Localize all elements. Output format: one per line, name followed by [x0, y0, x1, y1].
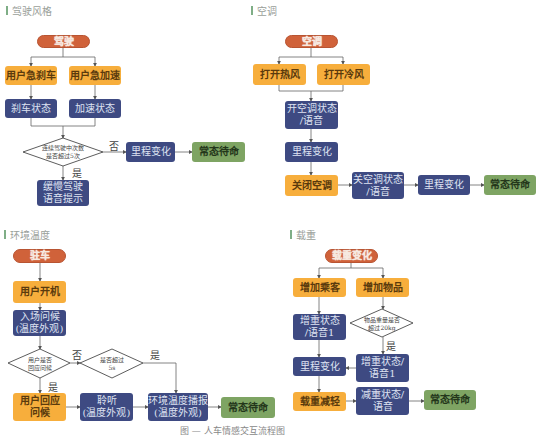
- figure-caption: 图 — 人车情感交互流程图: [180, 424, 285, 437]
- load-start-node: 载重变化: [325, 249, 378, 263]
- section-title-text: 驾驶风格: [12, 3, 52, 18]
- env-yes-label-2: 是: [150, 347, 160, 362]
- driving-standby-node: 常态待命: [192, 142, 245, 162]
- load-reduce-node: 载重减轻: [293, 392, 346, 411]
- power-on-node: 用户开机: [13, 281, 66, 303]
- ac-off-state-node: 关空调状态 /语音: [352, 172, 404, 199]
- ac-standby-node: 常态待命: [484, 175, 536, 195]
- add-item-node: 增加物品: [356, 278, 409, 297]
- driving-yes-label: 是: [72, 165, 82, 180]
- brake-state-node: 刹车状态: [5, 99, 57, 118]
- weight-state-node-2: 增重状态/ 语音1: [356, 354, 409, 382]
- brake-action-node: 用户急刹车: [5, 66, 57, 85]
- section-title-text: 空调: [257, 3, 277, 18]
- section-title-environment: 环境温度: [4, 227, 50, 242]
- accel-action-node: 用户急加速: [69, 66, 121, 85]
- section-title-load: 载重: [290, 227, 316, 242]
- load-yes-label: 是: [386, 338, 396, 353]
- ac-off-node: 关闭空调: [285, 175, 338, 196]
- reduce-state-node: 减重状态/ 语音: [356, 387, 409, 415]
- greeting-node: 入场问候 (温度外观): [13, 310, 66, 336]
- section-bar-icon: [6, 6, 8, 15]
- env-start-node: 驻车: [13, 249, 66, 263]
- env-yes-label-1: 是: [48, 379, 58, 394]
- ac-start-node: 空调: [285, 35, 338, 48]
- section-title-text: 载重: [296, 227, 316, 242]
- section-title-ac: 空调: [251, 3, 277, 18]
- driving-no-label: 否: [109, 138, 119, 153]
- section-title-text: 环境温度: [10, 227, 50, 242]
- ac-on-state-node: 开空调状态 /语音: [285, 101, 338, 129]
- env-standby-node: 常态待命: [221, 397, 275, 418]
- section-title-driving: 驾驶风格: [6, 3, 52, 18]
- section-bar-icon: [290, 230, 292, 239]
- reply-decision-text: 用户是否 回应问候: [15, 356, 65, 372]
- section-bar-icon: [251, 6, 253, 15]
- driving-decision-text: 连续驾驶中次数 是否超过5次: [33, 144, 93, 160]
- weight-decision-text: 物品重量是否 超过20kg: [355, 316, 409, 332]
- temp-broadcast-node: 环境温度播报 (温度外观): [148, 393, 208, 421]
- ac-mileage-node-1: 里程变化: [285, 142, 338, 162]
- cold-air-node: 打开冷风: [317, 64, 370, 85]
- section-bar-icon: [4, 230, 6, 239]
- load-standby-node: 常态待命: [424, 390, 476, 410]
- accel-state-node: 加速状态: [69, 99, 121, 118]
- listen-node: 聆听 (温度外观): [80, 393, 133, 421]
- driving-start-node: 驾驶: [37, 35, 90, 48]
- env-no-label: 否: [72, 347, 82, 362]
- user-reply-node: 用户回应 问候: [13, 393, 66, 421]
- ac-mileage-node-2: 里程变化: [418, 175, 470, 195]
- driving-mileage-node: 里程变化: [126, 142, 175, 162]
- weight-state-node-1: 增重状态 /语音1: [293, 314, 346, 340]
- load-mileage-node: 里程变化: [293, 357, 346, 376]
- hot-air-node: 打开热风: [253, 64, 306, 85]
- voice-prompt-node: 缓慢驾驶 语音提示: [37, 180, 89, 206]
- timeout-decision-text: 是否超过 5s: [87, 356, 137, 372]
- add-passenger-node: 增加乘客: [293, 278, 346, 297]
